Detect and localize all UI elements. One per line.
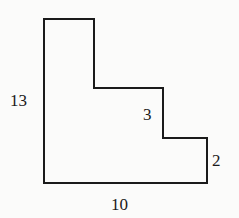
left-side-length-label: 13 (10, 91, 27, 110)
right-side-length-label: 2 (212, 151, 221, 170)
staircase-shape-diagram: 13 3 2 10 (0, 0, 239, 218)
bottom-side-length-label: 10 (111, 195, 128, 214)
middle-step-length-label: 3 (143, 105, 152, 124)
shape-outline (44, 19, 207, 183)
